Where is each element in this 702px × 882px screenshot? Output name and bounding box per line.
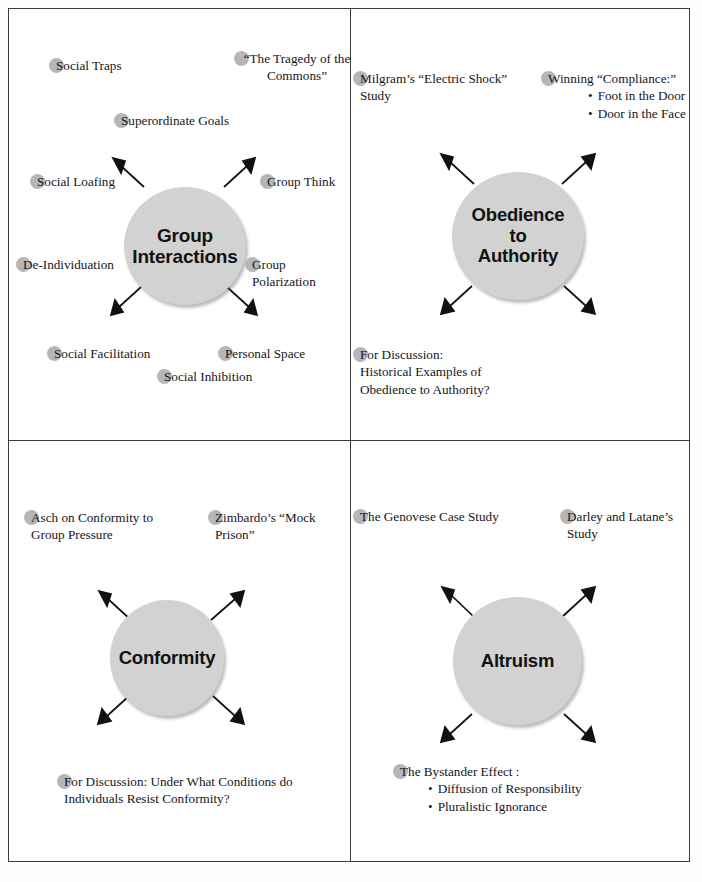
label-genovese-case-study: The Genovese Case Study [360, 508, 499, 525]
list-item: Foot in the Door [588, 87, 686, 104]
node-obedience-to-authority: Obedience to Authority [452, 172, 584, 300]
label-de-individuation: De-Individuation [23, 256, 114, 273]
node-conformity: Conformity [110, 600, 224, 716]
label-social-facilitation: Social Facilitation [54, 345, 150, 362]
node-label: Altruism [475, 651, 560, 672]
label-social-loafing: Social Loafing [37, 173, 115, 190]
concept-map-page: Social Psychology Group Interactions Soc… [0, 0, 702, 882]
list-item: Door in the Face [588, 105, 686, 122]
label-for-discussion-conformity: For Discussion: Under What Conditions do… [64, 773, 293, 808]
list-item: Diffusion of Responsibility [428, 780, 582, 797]
node-group-interactions: Group Interactions [124, 187, 246, 305]
label-tragedy-of-the-commons: “The Tragedy of the Commons” [241, 50, 353, 85]
node-altruism: Altruism [453, 597, 582, 725]
label-asch-conformity: Asch on Conformity to Group Pressure [31, 509, 153, 544]
list-item: Pluralistic Ignorance [428, 798, 582, 815]
label-social-inhibition: Social Inhibition [164, 368, 252, 385]
node-label: Group Interactions [126, 225, 243, 268]
label-social-traps: Social Traps [56, 57, 122, 74]
label-personal-space: Personal Space [225, 345, 305, 362]
label-group-think: Group Think [267, 173, 335, 190]
quadrant-group-interactions: Group Interactions Social Traps “The Tra… [9, 9, 350, 440]
quadrant-obedience-to-authority: Obedience to Authority Milgram’s “Electr… [352, 9, 689, 440]
label-milgram-study: Milgram’s “Electric Shock” Study [360, 70, 507, 105]
label-for-discussion-obedience: For Discussion: Historical Examples of O… [360, 346, 490, 398]
label-darley-latane-study: Darley and Latane’s Study [567, 508, 689, 543]
label-superordinate-goals: Superordinate Goals [121, 112, 229, 129]
label-winning-compliance: Winning “Compliance:” Foot in the Door D… [548, 70, 686, 122]
quadrant-altruism: Altruism The Genovese Case Study Darley … [352, 442, 689, 861]
label-group-polarization: Group Polarization [252, 256, 350, 291]
sublist-bystander-mechanisms: Diffusion of Responsibility Pluralistic … [400, 780, 582, 815]
label-bystander-effect: The Bystander Effect : Diffusion of Resp… [400, 763, 582, 815]
quadrant-conformity: Conformity Asch on Conformity to Group P… [9, 442, 350, 861]
node-label: Obedience to Authority [466, 205, 571, 267]
sublist-compliance-tactics: Foot in the Door Door in the Face [548, 87, 686, 122]
node-label: Conformity [113, 648, 222, 669]
label-zimbardo-mock-prison: Zimbardo’s “Mock Prison” [215, 509, 316, 544]
